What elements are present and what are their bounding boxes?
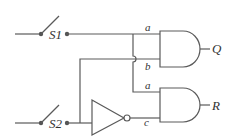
- label-lower-a: a: [145, 79, 151, 91]
- label-upper-a: a: [145, 21, 151, 33]
- label-output-q: Q: [212, 41, 222, 56]
- switch-s1: S1: [15, 16, 69, 42]
- and-gate-lower: [160, 88, 200, 122]
- circuit-diagram: S1 S2 a b a c Q R: [0, 0, 235, 138]
- label-lower-c: c: [144, 116, 149, 128]
- switch-s2: S2: [15, 105, 69, 131]
- label-output-r: R: [211, 98, 220, 113]
- s1-label: S1: [49, 27, 62, 42]
- and-gate-upper: [160, 31, 200, 67]
- label-upper-b: b: [145, 60, 151, 72]
- s2-label: S2: [49, 116, 63, 131]
- inverter-gate: [92, 100, 130, 135]
